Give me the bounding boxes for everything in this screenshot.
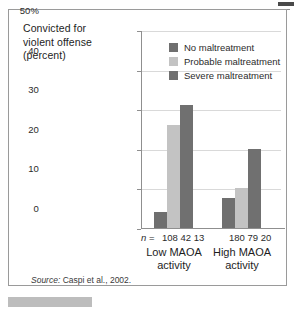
legend: No maltreatmentProbable maltreatmentSeve… [169, 40, 280, 82]
legend-item-1: Probable maltreatment [169, 54, 280, 68]
bar-1-0 [222, 198, 235, 228]
corner-mark-artifact [278, 2, 294, 6]
y-axis-line [141, 31, 142, 229]
y-tick-label-10: 10 [5, 163, 39, 174]
group-1-line-1: activity [199, 259, 285, 272]
y-axis-tick-labels: 01020304050% [9, 10, 39, 208]
sample-size-row: n = 108 42 13 180 79 20 [133, 232, 285, 244]
group-1-line-0: High MAOA [199, 246, 285, 259]
sample-size-equals: = [146, 232, 154, 243]
y-tick-label-30: 30 [5, 84, 39, 95]
legend-label-1: Probable maltreatment [184, 56, 280, 67]
y-tick-0 [137, 229, 141, 230]
y-tick-label-20: 20 [5, 123, 39, 134]
legend-label-0: No maltreatment [184, 42, 254, 53]
bottom-gray-bar [8, 297, 92, 307]
figure-frame: Convicted for violent offense (percent) … [8, 9, 287, 286]
legend-swatch-1 [169, 57, 178, 66]
y-tick-label-50: 50% [5, 5, 39, 16]
legend-swatch-2 [169, 71, 178, 80]
y-tick-label-40: 40 [5, 44, 39, 55]
sample-size-values-high: 180 79 20 [229, 232, 271, 243]
y-tick-50 [137, 31, 141, 32]
bar-1-1 [235, 188, 248, 228]
gridline-30 [142, 110, 281, 111]
bar-0-2 [180, 105, 193, 228]
gridline-50 [142, 31, 281, 32]
y-tick-20 [137, 150, 141, 151]
sample-size-values-low: 108 42 13 [162, 232, 204, 243]
bar-0-0 [154, 212, 167, 228]
source-label: Source: [31, 275, 60, 285]
legend-item-0: No maltreatment [169, 40, 280, 54]
legend-item-2: Severe maltreatment [169, 68, 280, 82]
y-tick-30 [137, 110, 141, 111]
source-text: Caspi et al., 2002. [63, 275, 132, 285]
x-axis-line [141, 228, 285, 229]
legend-swatch-0 [169, 43, 178, 52]
bar-1-2 [248, 149, 261, 228]
sample-size-prefix: n = [141, 232, 154, 243]
legend-label-2: Severe maltreatment [184, 70, 272, 81]
source-note: Source: Caspi et al., 2002. [31, 275, 131, 285]
y-tick-label-0: 0 [5, 203, 39, 214]
y-tick-40 [137, 71, 141, 72]
y-tick-10 [137, 189, 141, 190]
group-label-high-maoa: High MAOAactivity [199, 246, 285, 272]
bar-0-1 [167, 125, 180, 228]
